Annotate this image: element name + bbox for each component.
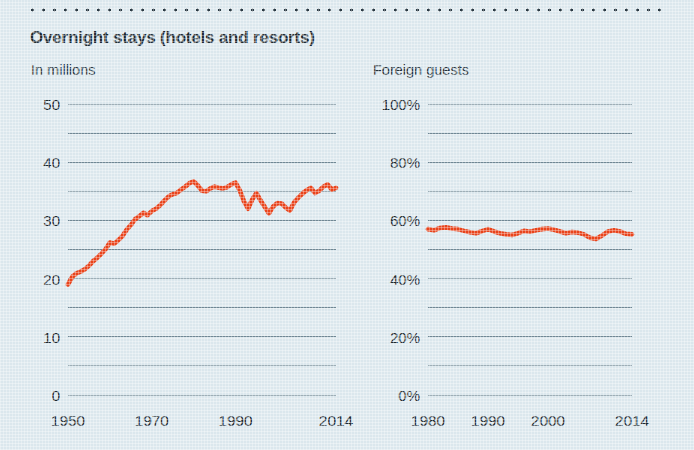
y-axis-tick-label: 60% [360, 212, 420, 229]
y-axis-tick-label: 20% [360, 328, 420, 345]
left-chart-panel [0, 92, 360, 412]
y-axis-tick-label: 40 [0, 154, 60, 171]
x-axis-tick-label: 2000 [531, 412, 565, 430]
x-axis-tick-label: 2014 [319, 412, 353, 430]
y-axis-tick-label: 30 [0, 212, 60, 229]
y-axis-tick-label: 0% [360, 387, 420, 404]
left-chart-plot [0, 92, 360, 412]
x-axis-tick-label: 1980 [411, 412, 445, 430]
y-axis-tick-label: 10 [0, 328, 60, 345]
right-chart-panel [360, 92, 694, 412]
x-axis-tick-label: 2014 [615, 412, 649, 430]
y-axis-tick-label: 80% [360, 154, 420, 171]
right-chart-subtitle: Foreign guests [373, 62, 469, 78]
x-axis-tick-label: 1970 [135, 412, 169, 430]
data-series-line [68, 181, 336, 284]
y-axis-tick-label: 20 [0, 270, 60, 287]
x-axis-tick-label: 1990 [218, 412, 252, 430]
left-chart-xaxis: 1950197019902014 [0, 412, 360, 436]
infographic-page: Overnight stays (hotels and resorts) In … [0, 0, 694, 450]
x-axis-tick-label: 1950 [51, 412, 85, 430]
y-axis-tick-label: 0 [0, 387, 60, 404]
x-axis-tick-label: 1990 [471, 412, 505, 430]
dotted-divider-rule [27, 8, 667, 12]
page-title: Overnight stays (hotels and resorts) [30, 28, 315, 48]
left-chart-subtitle: In millions [31, 62, 95, 78]
right-chart-plot [360, 92, 694, 412]
right-chart-xaxis: 1980199020002014 [360, 412, 694, 436]
y-axis-tick-label: 50 [0, 96, 60, 113]
y-axis-tick-label: 40% [360, 270, 420, 287]
data-series-line [428, 227, 632, 239]
y-axis-tick-label: 100% [360, 96, 420, 113]
